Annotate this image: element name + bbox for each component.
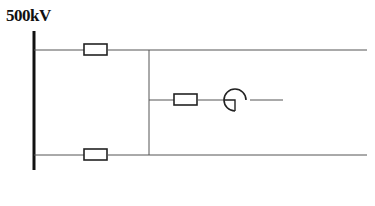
circuit-diagram	[0, 0, 375, 206]
bottom-resistor-icon	[84, 149, 107, 160]
top-resistor-icon	[84, 44, 107, 55]
middle-resistor-icon	[174, 94, 197, 105]
